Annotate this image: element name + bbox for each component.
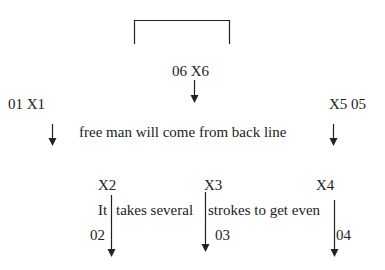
player-label-x2: X2 — [98, 178, 116, 193]
arrow-x2 — [108, 195, 116, 257]
number-04: 04 — [336, 228, 351, 243]
arrow-x1 — [49, 124, 57, 146]
player-label-x6: 06 X6 — [172, 64, 209, 79]
caption-free-man: free man will come from back line — [79, 125, 286, 140]
player-label-x4: X4 — [316, 178, 334, 193]
diagram-canvas: 06 X6 01 X1 X5 05 free man will come fro… — [0, 0, 385, 270]
arrow-x3 — [202, 192, 210, 252]
caption-part-takes-several: takes several — [116, 203, 193, 218]
player-label-x5: X5 05 — [329, 97, 366, 112]
caption-part-it: It — [98, 203, 107, 218]
goal-bracket — [135, 21, 230, 45]
number-03: 03 — [215, 228, 230, 243]
arrow-x5 — [330, 124, 338, 146]
player-label-x1: 01 X1 — [8, 97, 45, 112]
player-label-x3: X3 — [204, 178, 222, 193]
arrow-x6 — [191, 80, 199, 103]
number-02: 02 — [90, 228, 105, 243]
caption-part-strokes: strokes to get even — [208, 203, 320, 218]
